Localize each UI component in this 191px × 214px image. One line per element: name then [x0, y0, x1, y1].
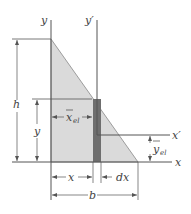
label-x-el-sub: el — [73, 117, 79, 125]
label-b: b — [89, 189, 96, 202]
label-y-el-sub: el — [160, 149, 166, 157]
diagram-svg: h y x el y el y y′ x′ x x dx — [0, 0, 191, 214]
label-x-prime-axis: x′ — [172, 129, 181, 142]
label-y-el: y — [152, 143, 160, 156]
label-y-axis: y — [40, 14, 48, 27]
label-dx: dx — [116, 171, 130, 184]
label-x-axis: x — [175, 156, 182, 169]
label-y: y — [33, 125, 41, 138]
label-x-dim: x — [68, 171, 75, 184]
label-h: h — [13, 98, 20, 111]
triangle-diagram: h y x el y el y y′ x′ x x dx — [0, 0, 191, 214]
label-x-el: x — [66, 111, 73, 124]
label-y-prime-axis: y′ — [84, 14, 94, 27]
